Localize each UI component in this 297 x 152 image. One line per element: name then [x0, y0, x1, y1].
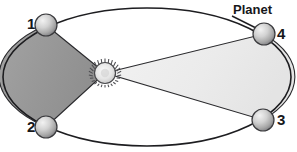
- planet-marker-1: [35, 14, 57, 36]
- point-label-3: 3: [277, 112, 285, 127]
- planet-marker-4: [253, 23, 275, 45]
- kepler-equal-areas-diagram: Planet 1 2 3 4: [0, 0, 297, 152]
- near-sun-sector: [0, 25, 105, 127]
- orbit-diagram-canvas: [0, 0, 297, 152]
- planet-marker-2: [35, 116, 57, 138]
- point-label-2: 2: [27, 119, 35, 134]
- planet-label: Planet: [233, 3, 272, 16]
- planet-marker-3: [252, 109, 274, 131]
- point-label-1: 1: [27, 16, 35, 31]
- point-label-4: 4: [277, 26, 285, 41]
- far-sun-sector: [105, 34, 295, 120]
